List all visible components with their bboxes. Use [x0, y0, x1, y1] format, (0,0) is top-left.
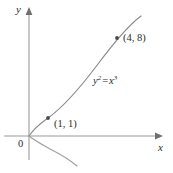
y-axis-label: y: [16, 4, 21, 15]
point-marker-4-8: [115, 36, 119, 40]
x-axis-arrowhead: [155, 133, 163, 140]
point-label-4-8: (4, 8): [123, 33, 146, 44]
point-label-1-1: (1, 1): [54, 119, 77, 130]
x-axis-label: x: [158, 142, 163, 153]
axes-group: [4, 7, 163, 160]
curve-lower-branch: [29, 136, 77, 166]
y-axis-arrowhead: [26, 7, 33, 15]
graph-canvas: [0, 0, 173, 173]
curve-equation-label: y2=x3: [93, 76, 117, 87]
equation-rhs-exponent: 3: [114, 74, 118, 82]
origin-label: 0: [18, 139, 23, 150]
equation-relation-sign: =: [101, 75, 109, 86]
point-marker-1-1: [46, 116, 50, 120]
semicubical-parabola-figure: y x 0 (1, 1) (4, 8) y2=x3: [0, 0, 173, 173]
